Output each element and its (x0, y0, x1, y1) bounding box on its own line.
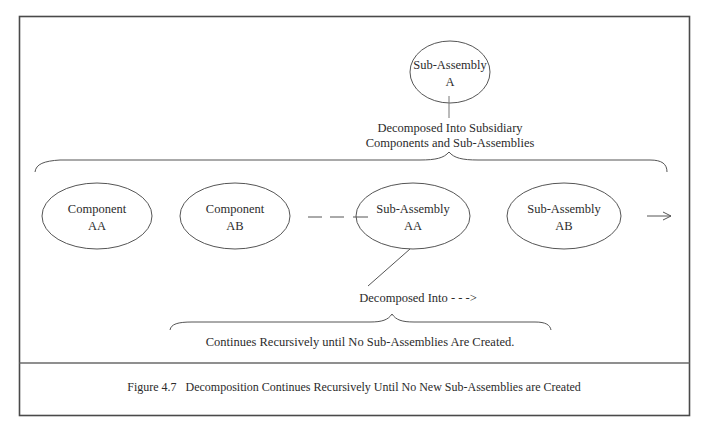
node-sub-assembly-a-line2: A (445, 75, 454, 89)
decomposition-diagram: Sub-Assembly A Decomposed Into Subsidiar… (0, 0, 708, 433)
recursion-brace (170, 314, 551, 330)
node-sub-assembly-aa-line1: Sub-Assembly (376, 202, 450, 216)
node-sub-assembly-a-line1: Sub-Assembly (413, 58, 487, 72)
figure-caption: Figure 4.7 Decomposition Continues Recur… (127, 380, 581, 394)
node-component-aa: Component AA (42, 183, 152, 249)
top-note-line2: Components and Sub-Assemblies (366, 136, 535, 150)
node-sub-assembly-aa-line2: AA (404, 219, 422, 233)
node-sub-assembly-ab: Sub-Assembly AB (507, 183, 621, 249)
node-sub-assembly-ab-line1: Sub-Assembly (527, 202, 601, 216)
top-note-line1: Decomposed Into Subsidiary (377, 121, 523, 135)
node-component-aa-line1: Component (68, 202, 127, 216)
node-component-aa-line2: AA (88, 219, 106, 233)
sub-assembly-aa-connector-line (368, 249, 410, 286)
node-component-ab-line2: AB (226, 219, 243, 233)
node-sub-assembly-ab-line2: AB (555, 219, 572, 233)
node-sub-assembly-a: Sub-Assembly A (410, 41, 490, 103)
recursion-note: Continues Recursively until No Sub-Assem… (206, 335, 515, 349)
node-component-ab-line1: Component (206, 202, 265, 216)
children-brace (35, 152, 667, 172)
node-component-ab: Component AB (180, 183, 290, 249)
continuation-arrow-icon (647, 212, 671, 220)
node-sub-assembly-aa: Sub-Assembly AA (356, 183, 470, 249)
figure-frame (20, 17, 690, 416)
bottom-note: Decomposed Into - - -> (359, 291, 476, 305)
